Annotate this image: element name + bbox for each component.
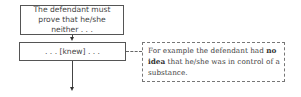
arrowhead-1-icon — [70, 37, 74, 41]
box-knew: . . . [knew] . . . — [19, 42, 126, 61]
connector-line-2 — [72, 61, 73, 88]
note-text-end: that he/she was in control of a substanc… — [148, 57, 280, 77]
box-defendant-must-prove: The defendant must prove that he/she nei… — [20, 5, 124, 35]
arrowhead-2-icon — [70, 87, 74, 91]
note-text-start: For example the defendant had — [148, 46, 266, 55]
box-defendant-must-prove-text: The defendant must prove that he/she nei… — [25, 5, 119, 35]
dashed-connector — [126, 51, 142, 52]
note-bold-no: no — [266, 46, 276, 55]
box-knew-text: . . . [knew] . . . — [45, 47, 100, 57]
note-bold-idea: idea — [148, 57, 165, 66]
example-note-box: For example the defendant had no idea th… — [142, 42, 285, 82]
